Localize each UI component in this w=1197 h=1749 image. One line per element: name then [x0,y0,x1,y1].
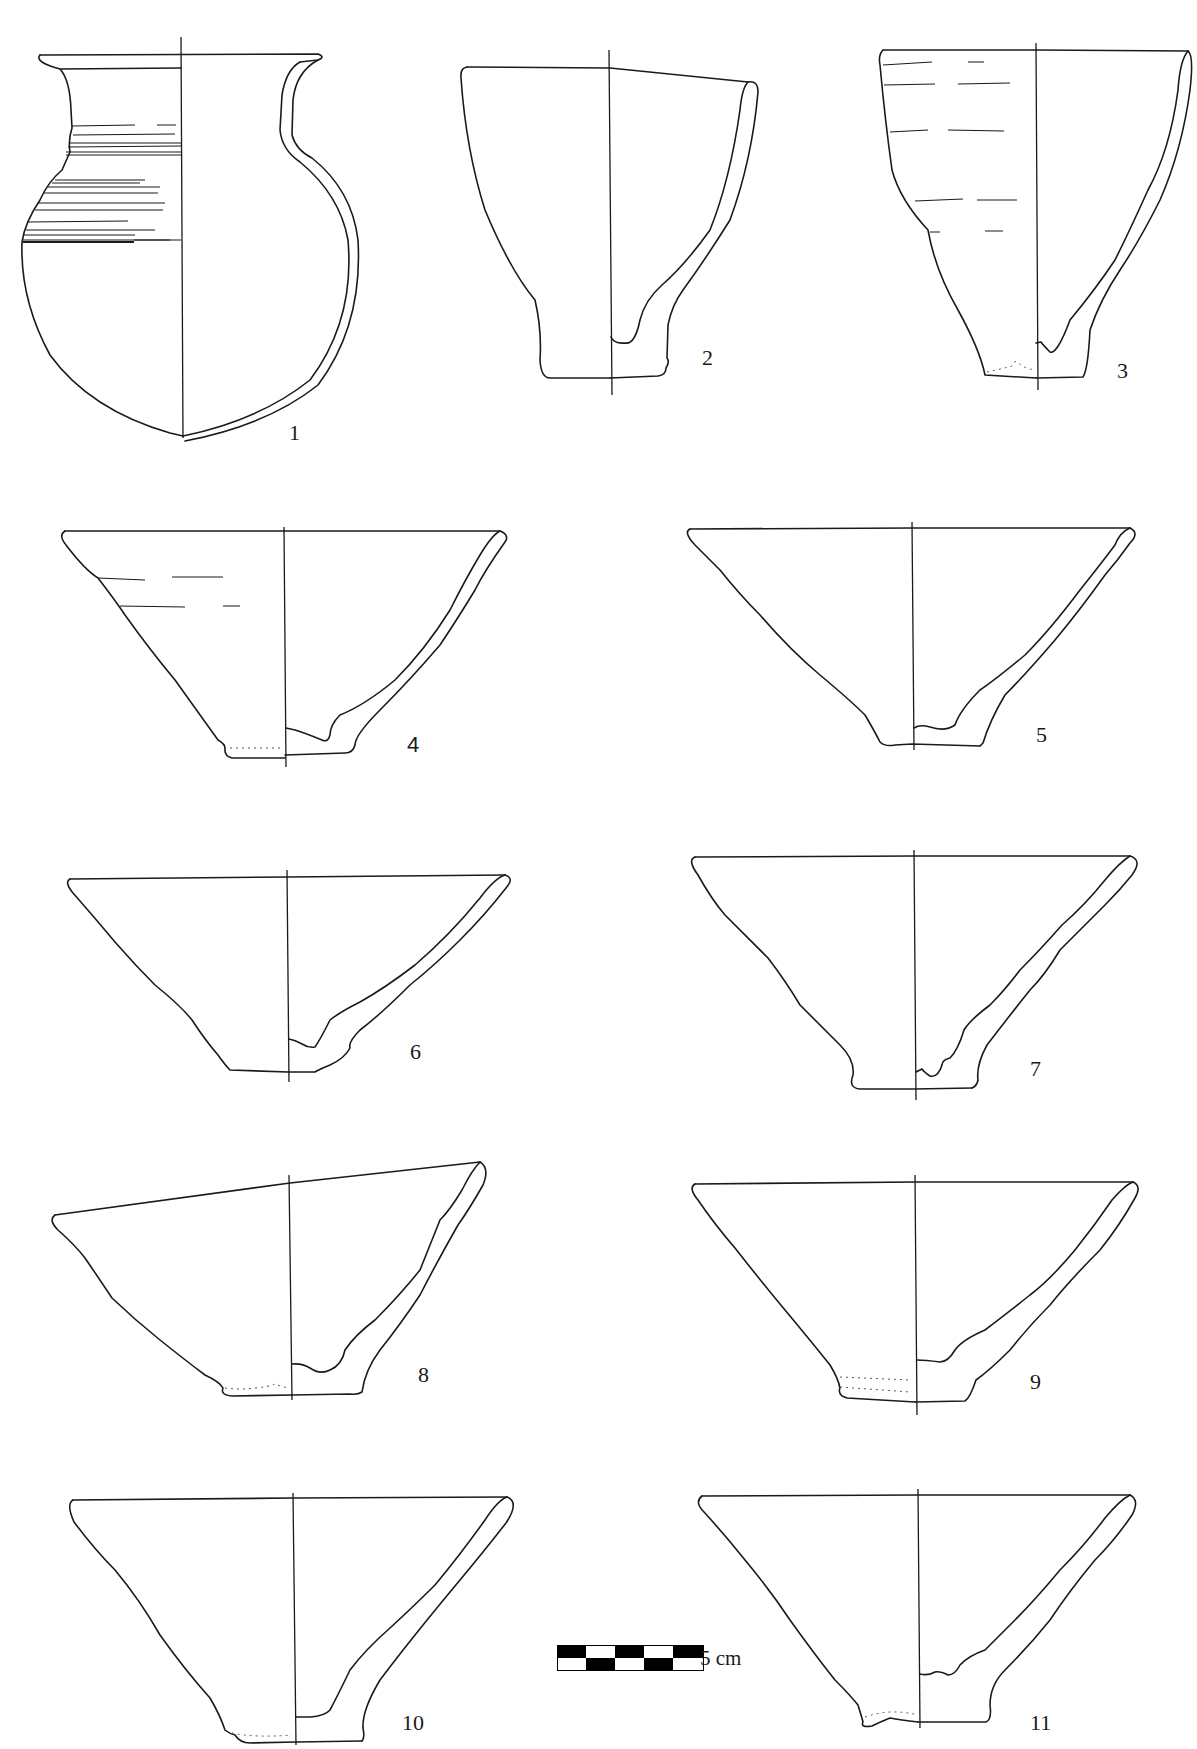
scale-bar-label: 5 cm [700,1648,741,1669]
vessel-9-bowl [650,1130,1197,1430]
vessel-1-jar [0,0,400,440]
scale-bar [557,1645,704,1675]
vessel-5-bowl [650,500,1197,800]
vessel-6-bowl [40,820,600,1100]
figure-number-7: 7 [1030,1058,1041,1080]
pottery-plate: 1 2 3 [0,0,1197,1749]
figure-number-5: 5 [1036,724,1047,746]
vessel-10-bowl [40,1460,600,1749]
figure-number-9: 9 [1030,1371,1041,1393]
figure-number-4: 4 [407,734,419,756]
figure-number-11: 11 [1030,1712,1051,1734]
vessel-2-cup [400,0,800,420]
figure-number-1: 1 [289,422,300,444]
figure-number-2: 2 [702,347,713,369]
figure-number-8: 8 [418,1364,429,1386]
vessel-4-bowl [40,500,600,800]
vessel-8-bowl [40,1130,600,1430]
figure-number-6: 6 [410,1041,421,1063]
vessel-7-bowl [650,820,1197,1100]
vessel-11-bowl [650,1460,1197,1749]
vessel-3-cup [800,0,1197,420]
figure-number-10: 10 [402,1712,424,1734]
figure-number-3: 3 [1117,360,1128,382]
